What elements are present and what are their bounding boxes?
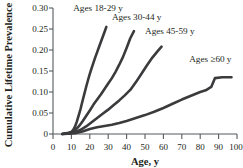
x-tick-label-0: 0 — [51, 142, 56, 152]
x-tick-label-10: 10 — [67, 142, 77, 152]
series-label-ages-60-plus: Ages ≥60 y — [189, 54, 232, 64]
y-axis-label: Cumulative Lifetime Prevalence — [3, 2, 14, 147]
y-tick-label-010: 0.10 — [32, 87, 48, 97]
series-label-ages-45-59: Ages 45-59 y — [145, 26, 195, 36]
x-tick-label-70: 70 — [177, 142, 187, 152]
x-axis-label: Age, y — [131, 156, 160, 167]
y-tick-label-020: 0.20 — [32, 45, 48, 55]
x-axis-ticks — [53, 134, 237, 139]
series-label-ages-30-44: Ages 30-44 y — [112, 12, 162, 22]
x-tick-label-50: 50 — [141, 142, 151, 152]
y-tick-label-030: 0.30 — [32, 3, 48, 13]
x-tick-label-40: 40 — [122, 142, 132, 152]
chart-svg: Cumulative Lifetime Prevalence 0 0.05 0.… — [0, 0, 243, 168]
y-tick-label-005: 0.05 — [32, 108, 48, 118]
x-tick-label-90: 90 — [214, 142, 224, 152]
x-tick-label-20: 20 — [85, 142, 95, 152]
cumulative-lifetime-prevalence-chart: Cumulative Lifetime Prevalence 0 0.05 0.… — [0, 0, 243, 168]
x-tick-label-100: 100 — [229, 142, 243, 152]
x-tick-label-30: 30 — [104, 142, 114, 152]
y-tick-label-0: 0 — [44, 129, 49, 139]
y-tick-label-025: 0.25 — [32, 24, 48, 34]
x-tick-label-80: 80 — [196, 142, 206, 152]
x-tick-label-60: 60 — [159, 142, 169, 152]
y-tick-label-015: 0.15 — [32, 66, 48, 76]
